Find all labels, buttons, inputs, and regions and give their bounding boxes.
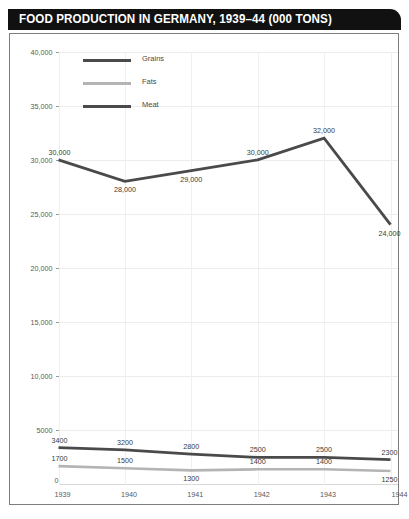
y-tick-label: 40,000 — [31, 48, 53, 57]
legend-label-fats: Fats — [142, 77, 157, 86]
y-tick-label: 20,000 — [31, 264, 53, 273]
data-label-grains-1944: 24,000 — [379, 229, 401, 238]
x-tick-label: 1941 — [187, 490, 203, 499]
y-tick-label: 35,000 — [31, 102, 53, 111]
legend-item-grains: Grains — [83, 54, 213, 77]
data-label-meat-1942: 2500 — [250, 445, 266, 454]
series-line-fats — [59, 466, 391, 471]
legend-label-grains: Grains — [142, 54, 164, 63]
data-label-grains-1939: 30,000 — [49, 148, 71, 157]
data-label-meat-1941: 2800 — [183, 442, 199, 451]
y-tick-label: 15,000 — [31, 318, 53, 327]
data-label-grains-1942: 30,000 — [247, 148, 269, 157]
legend-label-meat: Meat — [142, 100, 159, 109]
data-label-grains-1940: 28,000 — [114, 185, 136, 194]
data-label-meat-1940: 3200 — [117, 438, 133, 447]
x-tick-label: 1939 — [55, 490, 71, 499]
data-label-fats-1940: 1500 — [117, 456, 133, 465]
x-tick-label: 1940 — [121, 490, 137, 499]
legend-swatch-meat — [83, 105, 131, 108]
data-label-fats-1939: 1700 — [52, 454, 68, 463]
series-line-meat — [59, 448, 391, 460]
data-label-meat-1939: 3400 — [52, 436, 68, 445]
x-tick-label: 1942 — [254, 490, 270, 499]
data-label-fats-1943: 1400 — [316, 457, 332, 466]
y-tick-label: 5000 — [37, 426, 53, 435]
legend-item-meat: Meat — [83, 100, 213, 123]
legend-swatch-fats — [83, 82, 131, 85]
series-line-grains — [59, 138, 391, 225]
chart-page: FOOD PRODUCTION IN GERMANY, 1939–44 (000… — [0, 0, 409, 519]
data-label-meat-1944: 2300 — [382, 448, 398, 457]
y-tick-label: 25,000 — [31, 210, 53, 219]
y-tick-label: 10,000 — [31, 372, 53, 381]
x-tick-label: 1944 — [392, 490, 408, 499]
data-label-fats-1944: 1250 — [382, 475, 398, 484]
legend-swatch-grains — [83, 59, 131, 62]
data-label-meat-1943: 2500 — [316, 445, 332, 454]
y-zero-label: 0 — [55, 476, 59, 485]
data-label-grains-1941: 29,000 — [180, 175, 202, 184]
chart-legend: Grains Fats Meat — [83, 54, 213, 123]
legend-item-fats: Fats — [83, 77, 213, 100]
data-label-fats-1941: 1300 — [183, 474, 199, 483]
data-label-grains-1943: 32,000 — [313, 126, 335, 135]
y-tick-label: 30,000 — [31, 156, 53, 165]
x-tick-label: 1943 — [320, 490, 336, 499]
data-label-fats-1942: 1400 — [250, 457, 266, 466]
